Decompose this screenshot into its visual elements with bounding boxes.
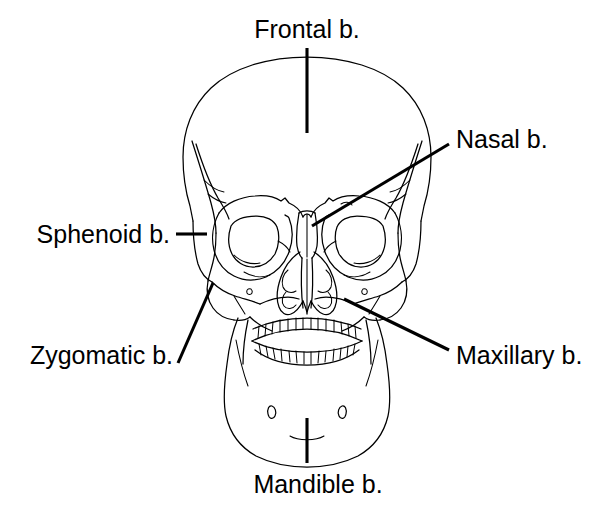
right-mental-foramen bbox=[338, 406, 346, 419]
right-temporal-lower-wall bbox=[402, 221, 421, 282]
left-middle-concha bbox=[282, 292, 296, 309]
right-mandible-oblique-line bbox=[366, 340, 378, 386]
left-orbit-floor-seam bbox=[244, 272, 270, 277]
nasal-septum-right bbox=[311, 258, 313, 308]
upper-dental-arch-top bbox=[253, 318, 361, 329]
lower-dental-arch-top bbox=[252, 341, 362, 352]
right-orbit-rim bbox=[322, 213, 401, 280]
nasal-septum-left bbox=[301, 258, 303, 308]
right-infraorbital-foramen bbox=[362, 289, 368, 295]
left-infraorbital-foramen bbox=[247, 289, 253, 295]
label-nasal-bone: Nasal b. bbox=[456, 125, 548, 153]
lower-tooth-separators bbox=[259, 344, 355, 364]
label-mandible-bone: Mandible b. bbox=[253, 470, 382, 498]
zygomatic-leader-line bbox=[178, 283, 213, 363]
left-inferior-concha bbox=[282, 270, 296, 292]
skull-diagram: Frontal b. Nasal b. Sphenoid b. Zygomati… bbox=[0, 0, 595, 505]
right-inferior-concha bbox=[318, 270, 332, 292]
right-zygomatic-bone bbox=[354, 282, 402, 304]
label-sphenoid-bone: Sphenoid b. bbox=[37, 220, 170, 248]
nasal-group bbox=[277, 211, 336, 315]
left-maxilla-body bbox=[260, 297, 299, 304]
cranial-vault-outline-right bbox=[307, 57, 431, 221]
label-frontal-bone: Frontal b. bbox=[254, 15, 360, 43]
nasal-aperture-right bbox=[311, 252, 337, 315]
right-orbit-lateral-seam bbox=[324, 241, 336, 252]
left-orbit-lateral-seam bbox=[278, 241, 290, 252]
left-mandible-oblique-line bbox=[236, 340, 248, 386]
left-brow-ridge bbox=[219, 196, 303, 217]
left-sphenoid-wing-edge bbox=[208, 233, 216, 281]
left-zygomatic-bone bbox=[212, 282, 260, 304]
leader-lines-group bbox=[176, 48, 449, 463]
nasal-aperture-left bbox=[277, 252, 303, 315]
left-mandible-ramus bbox=[243, 320, 248, 364]
upper-dental-arch-bottom bbox=[252, 329, 362, 341]
nasal-bone-right bbox=[312, 213, 317, 258]
cranial-vault-outline bbox=[183, 57, 307, 221]
left-orbit-rim bbox=[213, 213, 292, 280]
left-mental-foramen bbox=[268, 406, 276, 419]
right-orbit-floor-seam bbox=[344, 272, 370, 277]
right-sphenoid-wing-edge bbox=[398, 233, 406, 281]
label-maxillary-bone: Maxillary b. bbox=[456, 341, 582, 369]
left-temporal-lower-wall bbox=[193, 221, 212, 282]
right-brow-ridge bbox=[311, 196, 395, 217]
right-middle-concha bbox=[318, 292, 332, 309]
left-orbit-socket bbox=[229, 216, 279, 267]
nasal-bone-left bbox=[297, 213, 302, 258]
right-zygomatic-arch bbox=[380, 281, 407, 320]
label-zygomatic-bone: Zygomatic b. bbox=[30, 341, 173, 369]
upper-tooth-separators bbox=[258, 318, 356, 338]
teeth-group bbox=[252, 318, 362, 365]
right-mandible-ramus bbox=[366, 320, 371, 364]
skull-illustration: Frontal b. Nasal b. Sphenoid b. Zygomati… bbox=[0, 0, 595, 505]
right-orbit-socket bbox=[335, 216, 385, 267]
